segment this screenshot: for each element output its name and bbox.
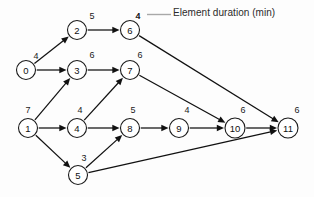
node-label-0: 0 xyxy=(23,65,28,76)
edge-6-to-11 xyxy=(139,36,279,123)
node-label-9: 9 xyxy=(176,123,181,134)
node-duration-11: 6 xyxy=(294,105,299,115)
node-duration-10: 6 xyxy=(240,105,245,115)
node-duration-9: 4 xyxy=(184,105,189,115)
node-label-6: 6 xyxy=(127,25,132,36)
edge-4-to-7 xyxy=(84,78,123,120)
arrowhead-icon xyxy=(59,125,66,131)
node-7[interactable]: 7 xyxy=(121,61,140,80)
legend-label: Element duration (min) xyxy=(173,7,275,18)
arrowhead-icon xyxy=(112,125,119,131)
node-label-7: 7 xyxy=(127,65,132,76)
node-0[interactable]: 0 xyxy=(17,61,36,80)
edge-1-to-3 xyxy=(35,78,70,120)
node-duration-0: 4 xyxy=(33,51,38,61)
node-label-1: 1 xyxy=(25,123,30,134)
node-2[interactable]: 2 xyxy=(68,21,87,40)
edge-9-to-10 xyxy=(190,125,224,131)
node-label-10: 10 xyxy=(230,123,241,134)
node-label-2: 2 xyxy=(74,25,79,36)
node-1[interactable]: 1 xyxy=(19,119,38,138)
node-11[interactable]: 11 xyxy=(278,118,298,138)
node-6[interactable]: 6 xyxy=(121,21,140,40)
node-8[interactable]: 8 xyxy=(121,119,140,138)
node-label-11: 11 xyxy=(283,123,293,134)
edge-7-to-10 xyxy=(139,75,225,123)
node-duration-4: 4 xyxy=(77,105,82,115)
edge-1-to-4 xyxy=(39,125,67,131)
nodes-layer: 04172536445364768594106116 xyxy=(17,11,300,185)
node-5[interactable]: 5 xyxy=(69,166,88,185)
network-diagram: 04172536445364768594106116 4 Element dur… xyxy=(0,0,314,197)
edge-8-to-9 xyxy=(141,125,169,131)
edge-0-to-2 xyxy=(34,36,68,63)
legend-leader-line: 4 xyxy=(135,11,171,21)
edge-5-to-8 xyxy=(86,135,122,168)
arrowhead-icon xyxy=(112,67,119,73)
arrowhead-icon xyxy=(161,125,168,131)
node-3[interactable]: 3 xyxy=(68,61,87,80)
edges-layer xyxy=(34,27,278,173)
node-9[interactable]: 9 xyxy=(170,119,189,138)
node-duration-1: 7 xyxy=(25,105,30,115)
arrowhead-icon xyxy=(271,116,279,123)
arrowhead-icon xyxy=(112,27,119,33)
network-graph-canvas: 04172536445364768594106116 4 xyxy=(0,0,314,197)
legend-anchor-duration: 4 xyxy=(135,11,140,21)
node-duration-8: 5 xyxy=(130,105,135,115)
node-10[interactable]: 10 xyxy=(225,118,245,138)
edge-3-to-7 xyxy=(88,67,120,73)
node-duration-2: 5 xyxy=(89,11,94,21)
node-duration-7: 6 xyxy=(137,50,142,60)
node-label-5: 5 xyxy=(75,170,80,181)
node-label-4: 4 xyxy=(74,123,79,134)
node-duration-3: 6 xyxy=(89,50,94,60)
node-duration-5: 3 xyxy=(81,153,86,163)
edge-2-to-6 xyxy=(88,27,120,33)
edge-4-to-8 xyxy=(88,125,120,131)
node-4[interactable]: 4 xyxy=(68,119,87,138)
edge-0-to-3 xyxy=(37,67,67,73)
edge-1-to-5 xyxy=(36,135,71,167)
arrowhead-icon xyxy=(217,125,224,131)
node-label-8: 8 xyxy=(127,123,132,134)
node-label-3: 3 xyxy=(74,65,79,76)
arrowhead-icon xyxy=(59,67,66,73)
arrowhead-icon xyxy=(61,36,69,43)
